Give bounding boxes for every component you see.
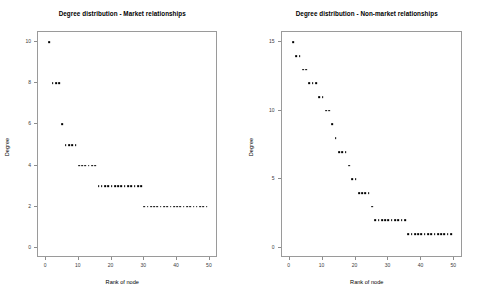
data-point <box>328 110 330 112</box>
data-point <box>147 206 149 208</box>
y-axis-tick-label: 2 <box>17 203 31 209</box>
data-point <box>414 233 416 235</box>
data-point <box>437 233 439 235</box>
chart-panel-market: Degree distribution - Market relationshi… <box>0 0 245 300</box>
x-axis-tick <box>322 257 323 260</box>
x-axis-tick <box>45 257 46 260</box>
data-point <box>434 233 436 235</box>
data-point <box>391 220 393 222</box>
data-point <box>440 233 442 235</box>
data-point <box>203 206 205 208</box>
data-point <box>417 233 419 235</box>
figure-container: Degree distribution - Market relationshi… <box>0 0 489 300</box>
x-axis-tick <box>420 257 421 260</box>
x-axis-tick-label: 20 <box>352 262 358 268</box>
data-point <box>111 185 113 187</box>
data-point <box>65 144 67 146</box>
x-axis-tick-label: 30 <box>385 262 391 268</box>
x-axis-title-nonmarket: Rank of node <box>245 279 489 285</box>
data-point <box>345 151 347 153</box>
y-axis-title-nonmarket: Degree <box>248 127 254 167</box>
data-point <box>163 206 165 208</box>
data-point <box>170 206 172 208</box>
x-axis-tick-label: 30 <box>141 262 147 268</box>
data-point <box>78 165 80 167</box>
x-axis-tick <box>355 257 356 260</box>
y-axis-tick <box>278 247 281 248</box>
x-axis-title-market: Rank of node <box>0 279 245 285</box>
data-point <box>196 206 198 208</box>
x-axis-tick-label: 0 <box>287 262 290 268</box>
data-point <box>318 96 320 98</box>
data-point <box>94 165 96 167</box>
x-axis-tick-label: 10 <box>75 262 81 268</box>
data-point <box>75 144 77 146</box>
data-point <box>404 220 406 222</box>
data-point <box>332 124 334 126</box>
data-point <box>292 41 294 43</box>
x-axis-tick <box>453 257 454 260</box>
data-point <box>134 185 136 187</box>
data-point <box>58 82 60 84</box>
x-axis-tick <box>387 257 388 260</box>
y-axis-tick <box>34 165 37 166</box>
data-point <box>447 233 449 235</box>
data-point <box>199 206 201 208</box>
data-point <box>117 185 119 187</box>
data-point <box>424 233 426 235</box>
x-axis-tick-label: 20 <box>108 262 114 268</box>
y-axis-tick-label: 10 <box>17 38 31 44</box>
data-point <box>55 82 57 84</box>
data-point <box>299 55 301 57</box>
scatter-points-nonmarket <box>282 32 461 256</box>
data-point <box>108 185 110 187</box>
data-point <box>160 206 162 208</box>
data-point <box>348 165 350 167</box>
data-point <box>137 185 139 187</box>
x-axis-tick-label: 50 <box>206 262 212 268</box>
data-point <box>444 233 446 235</box>
y-axis-tick-label: 8 <box>17 79 31 85</box>
data-point <box>421 233 423 235</box>
data-point <box>358 192 360 194</box>
plot-area-nonmarket <box>281 31 462 257</box>
y-axis-tick <box>34 41 37 42</box>
data-point <box>374 220 376 222</box>
data-point <box>427 233 429 235</box>
data-point <box>335 137 337 139</box>
data-point <box>365 192 367 194</box>
data-point <box>407 233 409 235</box>
data-point <box>381 220 383 222</box>
plot-area-market <box>37 31 217 257</box>
data-point <box>355 178 357 180</box>
data-point <box>140 185 142 187</box>
x-axis-tick-label: 50 <box>451 262 457 268</box>
data-point <box>305 69 307 71</box>
x-axis-tick <box>111 257 112 260</box>
data-point <box>124 185 126 187</box>
data-point <box>342 151 344 153</box>
y-axis-tick-label: 0 <box>261 244 275 250</box>
data-point <box>401 220 403 222</box>
data-point <box>189 206 191 208</box>
data-point <box>62 124 64 126</box>
data-point <box>49 41 51 43</box>
data-point <box>302 69 304 71</box>
scatter-points-market <box>38 32 216 256</box>
data-point <box>315 82 317 84</box>
y-axis-tick-label: 0 <box>17 244 31 250</box>
data-point <box>361 192 363 194</box>
chart-title-nonmarket: Degree distribution - Non-market relatio… <box>245 10 489 17</box>
data-point <box>150 206 152 208</box>
y-axis-tick-label: 5 <box>261 175 275 181</box>
data-point <box>183 206 185 208</box>
y-axis-tick <box>278 178 281 179</box>
y-axis-tick <box>34 206 37 207</box>
x-axis-tick <box>143 257 144 260</box>
y-axis-tick-label: 4 <box>17 162 31 168</box>
data-point <box>157 206 159 208</box>
data-point <box>351 178 353 180</box>
data-point <box>193 206 195 208</box>
y-axis-tick <box>34 123 37 124</box>
x-axis-tick-label: 0 <box>44 262 47 268</box>
